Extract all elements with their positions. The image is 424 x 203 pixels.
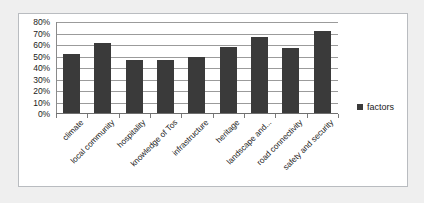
bar-slot bbox=[181, 22, 212, 114]
bar-slot bbox=[307, 22, 338, 114]
chart-legend: factors bbox=[357, 102, 394, 112]
x-axis-labels: climatelocal communityhospitalityknowled… bbox=[56, 118, 356, 184]
bar-infrastructure bbox=[188, 57, 205, 115]
bar-knowledge-of-tos bbox=[157, 60, 174, 114]
bar-slot bbox=[244, 22, 275, 114]
plot-area bbox=[56, 22, 338, 114]
y-tick-label: 70% bbox=[33, 29, 50, 38]
bar-slot bbox=[150, 22, 181, 114]
bar-slot bbox=[56, 22, 87, 114]
bar-climate bbox=[63, 54, 80, 114]
chart-container: 80%70%60%50%40%30%20%10%0% climatelocal … bbox=[18, 13, 408, 187]
bar-series-factors bbox=[56, 22, 338, 114]
bar-heritage bbox=[220, 47, 237, 114]
y-tick-label: 0% bbox=[38, 110, 50, 119]
bar-safety-and-security bbox=[314, 31, 331, 114]
x-axis-label: heritage bbox=[215, 118, 242, 145]
bar-slot bbox=[275, 22, 306, 114]
bar-slot bbox=[213, 22, 244, 114]
legend-swatch-factors bbox=[357, 104, 363, 110]
legend-label-factors: factors bbox=[367, 102, 394, 112]
y-tick-label: 20% bbox=[33, 87, 50, 96]
x-axis-label: hospitality bbox=[116, 118, 148, 150]
bar-local-community bbox=[94, 43, 111, 114]
bar-hospitality bbox=[126, 60, 143, 114]
y-tick-label: 80% bbox=[33, 18, 50, 27]
bar-slot bbox=[119, 22, 150, 114]
y-tick-label: 40% bbox=[33, 64, 50, 73]
y-tick-label: 30% bbox=[33, 75, 50, 84]
bar-slot bbox=[87, 22, 118, 114]
y-tick-label: 60% bbox=[33, 41, 50, 50]
bar-road-connectivity bbox=[282, 48, 299, 114]
y-tick-label: 10% bbox=[33, 98, 50, 107]
y-axis-labels: 80%70%60%50%40%30%20%10%0% bbox=[19, 22, 53, 114]
x-axis-label: climate bbox=[60, 118, 84, 142]
bar-landscape-and bbox=[251, 37, 268, 114]
y-tick-label: 50% bbox=[33, 52, 50, 61]
